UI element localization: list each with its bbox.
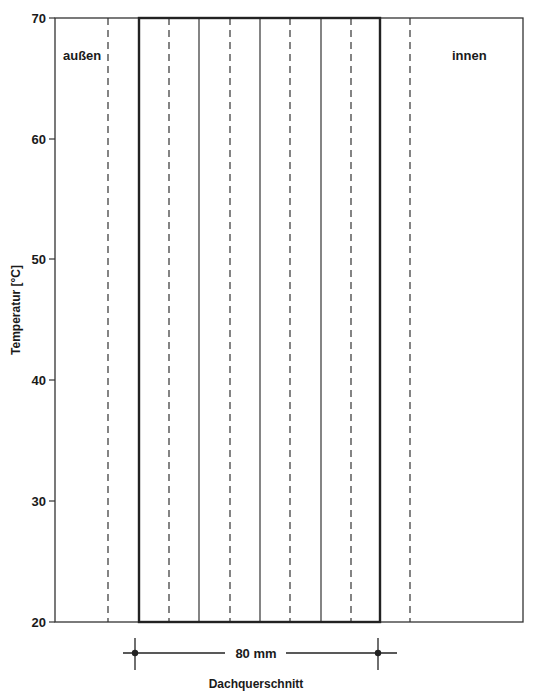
plot-frame [55,18,523,622]
tick-50: 50 [32,252,46,267]
x-axis-label: Dachquerschnitt [209,677,304,691]
y-axis-ticks [49,18,55,622]
label-outside: außen [63,48,101,63]
roof-cross-section-diagram: 70 60 50 40 30 20 Temperatur [°C] außen … [0,0,533,692]
tick-20: 20 [32,615,46,630]
dimension-marker-right [375,650,381,656]
dimension-label: 80 mm [235,646,276,661]
label-inside: innen [452,48,487,63]
tick-30: 30 [32,494,46,509]
tick-70: 70 [32,11,46,26]
tick-60: 60 [32,132,46,147]
dimension-marker-left [132,650,138,656]
dashed-lines [108,18,410,622]
y-axis-label: Temperatur [°C] [9,265,23,355]
layer-lines [199,18,321,622]
tick-40: 40 [32,373,46,388]
